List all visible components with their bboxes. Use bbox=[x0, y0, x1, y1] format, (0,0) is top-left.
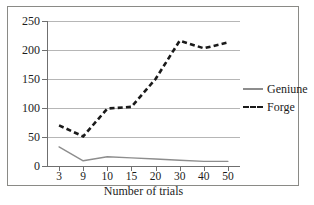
x-axis-title: Number of trials bbox=[47, 184, 240, 199]
x-tick-label: 40 bbox=[191, 170, 217, 182]
legend-label-forge: Forge bbox=[267, 99, 295, 115]
series-line-forge bbox=[59, 41, 228, 137]
x-tick-label: 20 bbox=[143, 170, 169, 182]
y-tick-label: 50 bbox=[0, 131, 40, 143]
y-tick-label: 200 bbox=[0, 44, 40, 56]
chart-figure: 050100150200250 39101520304050 Number of… bbox=[0, 0, 314, 205]
y-tick-label: 0 bbox=[0, 160, 40, 172]
x-tick-label: 30 bbox=[167, 170, 193, 182]
y-tick-label: 150 bbox=[0, 73, 40, 85]
x-tick-label: 3 bbox=[46, 170, 72, 182]
x-tick-label: 9 bbox=[70, 170, 96, 182]
legend-swatch-forge bbox=[243, 106, 263, 108]
y-tick-label: 250 bbox=[0, 15, 40, 27]
series-line-geniune bbox=[59, 147, 228, 162]
y-tick-label: 100 bbox=[0, 102, 40, 114]
x-tick-label: 15 bbox=[118, 170, 144, 182]
legend-item-geniune: Geniune bbox=[243, 81, 305, 99]
legend-label-geniune: Geniune bbox=[267, 81, 308, 97]
legend-item-forge: Forge bbox=[243, 99, 305, 117]
series-plot bbox=[47, 21, 240, 167]
chart-legend: Geniune Forge bbox=[243, 81, 305, 117]
x-tick-label: 10 bbox=[94, 170, 120, 182]
x-tick-label: 50 bbox=[215, 170, 241, 182]
legend-swatch-geniune bbox=[243, 88, 263, 90]
